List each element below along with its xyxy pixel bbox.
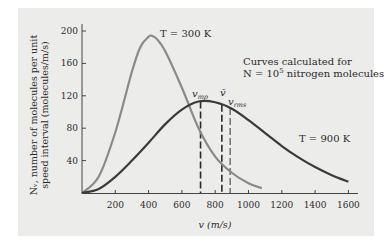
label-vbar: v̄ xyxy=(220,87,226,98)
label-t300: T = 300 K xyxy=(160,28,212,39)
speed-distribution-chart: 2004006008001000120014001600 40801201602… xyxy=(0,0,389,244)
x-tick-label: 1600 xyxy=(337,200,360,210)
y-axis-label: Nᵥ, number of molecules per unit speed i… xyxy=(28,35,50,196)
y-axis-label-line1: Nᵥ, number of molecules per unit xyxy=(28,35,39,196)
x-axis-label: v (m/s) xyxy=(199,219,232,230)
y-tick-label: 120 xyxy=(61,91,78,101)
y-tick-label: 200 xyxy=(61,26,78,36)
x-tick-label: 1400 xyxy=(304,200,327,210)
label-vmp: vmp xyxy=(192,88,209,101)
speed-markers xyxy=(201,102,231,193)
y-tick-label: 40 xyxy=(67,156,79,166)
figure-frame: 2004006008001000120014001600 40801201602… xyxy=(0,0,389,244)
curve-300k xyxy=(82,35,262,193)
x-tick-label: 400 xyxy=(140,200,157,210)
x-tick-label: 200 xyxy=(107,200,124,210)
x-tick-label: 800 xyxy=(207,200,224,210)
y-tick-label: 80 xyxy=(67,123,79,133)
curve-900k xyxy=(82,101,348,193)
note-line2: N = 105 nitrogen molecules xyxy=(243,67,384,79)
note-line1: Curves calculated for xyxy=(243,56,352,67)
x-tick-label: 600 xyxy=(173,200,190,210)
y-axis-label-line2: speed interval (molecules/m/s) xyxy=(39,41,50,189)
y-tick-label: 160 xyxy=(61,58,78,68)
label-t900: T = 900 K xyxy=(299,133,351,144)
x-tick-label: 1000 xyxy=(237,200,260,210)
x-tick-label: 1200 xyxy=(270,200,293,210)
